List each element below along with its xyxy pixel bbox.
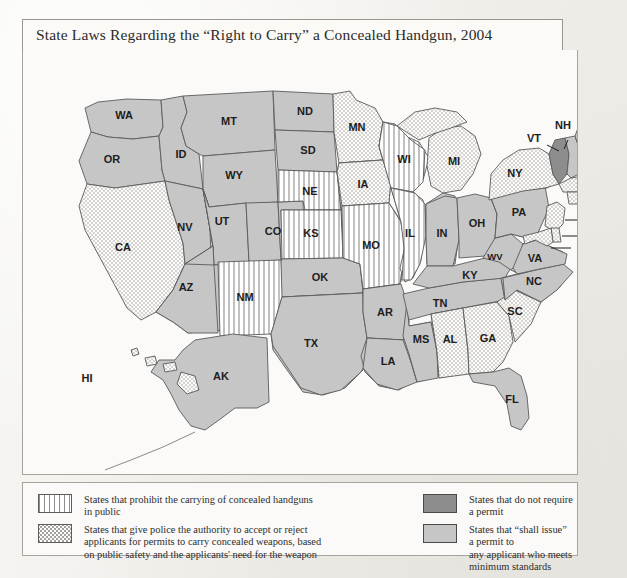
state-TX-body[interactable] bbox=[271, 293, 375, 395]
state-HI-3[interactable] bbox=[163, 362, 177, 372]
legend-item-no-permit[interactable]: States that do not require a permit bbox=[423, 494, 573, 519]
state-HI-2[interactable] bbox=[145, 356, 157, 366]
state-label-KS: KS bbox=[303, 227, 318, 239]
us-choropleth-map: WA OR CA ID NV MT WY UT AZ CO NM ND SD N… bbox=[23, 50, 577, 473]
state-AK[interactable] bbox=[151, 334, 269, 430]
state-label-WY: WY bbox=[225, 169, 243, 181]
state-label-NH: NH bbox=[555, 119, 571, 131]
legend-label-may-issue: States that give police the authority to… bbox=[84, 524, 321, 561]
state-label-MN: MN bbox=[348, 121, 365, 133]
state-label-PA: PA bbox=[512, 206, 527, 218]
state-label-AK: AK bbox=[213, 370, 229, 382]
map-legend: States that prohibit the carrying of con… bbox=[22, 482, 578, 556]
state-label-TN: TN bbox=[433, 297, 448, 309]
legend-column-left: States that prohibit the carrying of con… bbox=[38, 483, 408, 555]
state-label-TX: TX bbox=[304, 337, 319, 349]
state-label-AL: AL bbox=[443, 333, 458, 345]
state-label-GA: GA bbox=[480, 332, 497, 344]
state-NJ[interactable] bbox=[545, 202, 565, 232]
state-FL[interactable] bbox=[469, 368, 529, 430]
state-label-NM: NM bbox=[236, 291, 253, 303]
state-label-OH: OH bbox=[469, 217, 486, 229]
map-frame: WA OR CA ID NV MT WY UT AZ CO NM ND SD N… bbox=[22, 50, 578, 475]
state-label-UT: UT bbox=[215, 215, 230, 227]
legend-swatch-no-permit-icon bbox=[423, 494, 457, 513]
state-label-IA: IA bbox=[358, 178, 369, 190]
state-label-OK: OK bbox=[312, 271, 329, 283]
state-label-MS: MS bbox=[413, 333, 430, 345]
state-OR[interactable] bbox=[79, 132, 165, 188]
state-label-NE: NE bbox=[302, 185, 317, 197]
state-label-FL: FL bbox=[505, 393, 519, 405]
legend-swatch-may-issue-icon bbox=[38, 524, 72, 543]
legend-item-may-issue[interactable]: States that give police the authority to… bbox=[38, 524, 321, 561]
state-label-VA: VA bbox=[528, 252, 543, 264]
state-label-MI: MI bbox=[448, 155, 460, 167]
state-label-WA: WA bbox=[115, 109, 133, 121]
state-CT[interactable] bbox=[567, 192, 577, 204]
figure-title-box: State Laws Regarding the “Right to Carry… bbox=[22, 19, 563, 51]
state-label-WI: WI bbox=[397, 153, 410, 165]
state-label-AR: AR bbox=[377, 306, 393, 318]
state-label-CA: CA bbox=[115, 241, 131, 253]
legend-label-no-permit: States that do not require a permit bbox=[469, 494, 573, 519]
legend-label-shall-issue: States that “shall issue” a permit to an… bbox=[469, 524, 573, 573]
state-label-SC: SC bbox=[507, 305, 522, 317]
legend-swatch-prohibit-icon bbox=[38, 494, 72, 513]
state-label-NV: NV bbox=[177, 221, 193, 233]
state-label-NY: NY bbox=[507, 167, 523, 179]
state-label-SD: SD bbox=[300, 144, 315, 156]
state-label-AZ: AZ bbox=[179, 281, 194, 293]
figure-container: State Laws Regarding the “Right to Carry… bbox=[14, 19, 593, 564]
state-HI[interactable] bbox=[131, 348, 139, 356]
state-label-MT: MT bbox=[221, 115, 237, 127]
state-label-HI: HI bbox=[82, 372, 93, 384]
state-label-ID: ID bbox=[176, 148, 187, 160]
legend-column-right: States that do not require a permit Stat… bbox=[423, 483, 573, 555]
state-label-LA: LA bbox=[381, 355, 396, 367]
legend-item-prohibit[interactable]: States that prohibit the carrying of con… bbox=[38, 494, 313, 519]
state-label-IN: IN bbox=[437, 227, 448, 239]
state-label-ND: ND bbox=[297, 105, 313, 117]
legend-swatch-shall-issue-icon bbox=[423, 524, 457, 543]
state-label-CO: CO bbox=[265, 225, 282, 237]
state-label-KY: KY bbox=[462, 269, 478, 281]
state-label-MO: MO bbox=[362, 239, 380, 251]
state-label-NC: NC bbox=[526, 275, 542, 287]
state-label-OR: OR bbox=[104, 153, 121, 165]
state-AK-tail[interactable] bbox=[105, 432, 195, 470]
legend-label-prohibit: States that prohibit the carrying of con… bbox=[84, 494, 313, 519]
state-label-WV: WV bbox=[487, 251, 503, 262]
legend-item-shall-issue[interactable]: States that “shall issue” a permit to an… bbox=[423, 524, 573, 573]
state-label-VT: VT bbox=[527, 132, 541, 144]
state-label-IL: IL bbox=[405, 227, 415, 239]
page-title: State Laws Regarding the “Right to Carry… bbox=[23, 26, 492, 44]
